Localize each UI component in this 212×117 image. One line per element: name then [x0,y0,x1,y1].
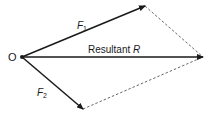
resultant-label-symbol: R [133,44,140,55]
origin-point [20,55,24,59]
vector-f2-subscript: 2 [43,92,47,99]
vector-f1-subscript: 1 [83,25,87,32]
vector-f2-arrow [22,57,83,109]
vector-f1-label: F1 [77,20,87,32]
dashed-line-f2-to-r [83,57,203,109]
resultant-label-text: Resultant [88,44,133,55]
vector-parallelogram-diagram: O F1 Resultant R F2 [0,0,212,117]
dashed-line-f1-to-r [145,6,203,57]
resultant-label: Resultant R [88,44,140,55]
origin-label: O [8,51,17,63]
vector-f2-label: F2 [37,87,47,99]
